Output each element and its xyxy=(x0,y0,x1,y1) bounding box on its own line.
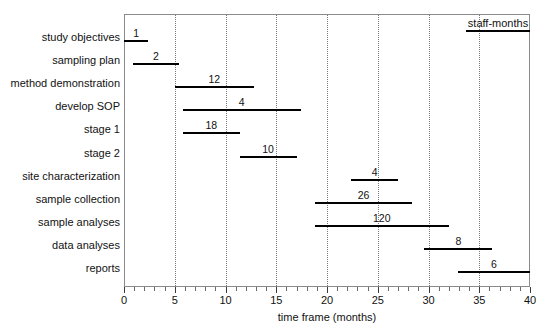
x-tick-minor xyxy=(469,287,470,291)
bar-value-label: 120 xyxy=(373,213,391,224)
x-tick-major xyxy=(175,287,176,293)
bar-value-label: 12 xyxy=(208,74,220,85)
x-tick-minor xyxy=(286,287,287,291)
bar-value-label: 6 xyxy=(491,259,497,270)
gridline xyxy=(378,15,379,286)
x-tick-label: 5 xyxy=(172,295,178,306)
x-tick-minor xyxy=(256,287,257,291)
category-axis: study objectivessampling planmethod demo… xyxy=(0,0,120,328)
task-bar xyxy=(183,109,301,111)
category-label: study objectives xyxy=(42,32,120,43)
x-tick-major xyxy=(378,287,379,293)
x-tick-minor xyxy=(266,287,267,291)
bar-value-label: 1 xyxy=(133,28,139,39)
bar-value-label: 4 xyxy=(372,167,378,178)
x-tick-minor xyxy=(439,287,440,291)
x-tick-minor xyxy=(144,287,145,291)
x-tick-label: 40 xyxy=(524,295,536,306)
bar-value-label: 10 xyxy=(262,144,274,155)
x-tick-label: 15 xyxy=(270,295,282,306)
category-label: stage 1 xyxy=(84,124,120,135)
task-bar xyxy=(315,225,449,227)
task-bar xyxy=(240,156,297,158)
x-tick-minor xyxy=(418,287,419,291)
x-tick-minor xyxy=(185,287,186,291)
x-tick-label: 10 xyxy=(219,295,231,306)
x-tick-minor xyxy=(195,287,196,291)
gantt-chart: study objectivessampling planmethod demo… xyxy=(0,0,556,328)
x-tick-major xyxy=(479,287,480,293)
x-tick-minor xyxy=(398,287,399,291)
x-tick-minor xyxy=(154,287,155,291)
x-tick-major xyxy=(276,287,277,293)
x-tick-minor xyxy=(297,287,298,291)
task-bar xyxy=(124,40,148,42)
category-label: stage 2 xyxy=(84,147,120,158)
category-label: sampling plan xyxy=(52,55,120,66)
x-tick-label: 30 xyxy=(422,295,434,306)
gridline xyxy=(327,15,328,286)
x-tick-minor xyxy=(489,287,490,291)
x-tick-minor xyxy=(510,287,511,291)
gridline xyxy=(175,15,176,286)
x-tick-major xyxy=(124,287,125,293)
x-tick-label: 35 xyxy=(473,295,485,306)
x-tick-minor xyxy=(246,287,247,291)
task-bar xyxy=(351,179,398,181)
bar-value-label: 2 xyxy=(153,51,159,62)
category-label: site characterization xyxy=(22,170,120,181)
bar-value-label: 4 xyxy=(239,97,245,108)
gridline xyxy=(429,15,430,286)
x-axis-title: time frame (months) xyxy=(278,312,376,323)
x-tick-minor xyxy=(368,287,369,291)
gridline xyxy=(226,15,227,286)
task-bar xyxy=(458,271,530,273)
bar-value-label: 18 xyxy=(205,120,217,131)
x-tick-minor xyxy=(347,287,348,291)
legend-label: staff-months xyxy=(466,17,530,29)
task-bar xyxy=(133,63,179,65)
x-tick-minor xyxy=(500,287,501,291)
x-tick-minor xyxy=(205,287,206,291)
x-tick-minor xyxy=(459,287,460,291)
bar-value-label: 8 xyxy=(456,236,462,247)
x-tick-minor xyxy=(388,287,389,291)
category-label: sample collection xyxy=(36,193,120,204)
legend: staff-months xyxy=(466,17,530,32)
category-label: sample analyses xyxy=(38,216,120,227)
x-tick-minor xyxy=(215,287,216,291)
x-tick-label: 20 xyxy=(321,295,333,306)
x-tick-label: 0 xyxy=(121,295,127,306)
gridline xyxy=(479,15,480,286)
x-tick-minor xyxy=(317,287,318,291)
bar-value-label: 26 xyxy=(358,190,370,201)
x-tick-major xyxy=(530,287,531,293)
x-tick-minor xyxy=(337,287,338,291)
category-label: reports xyxy=(86,263,120,274)
category-label: data analyses xyxy=(52,239,120,250)
x-tick-minor xyxy=(520,287,521,291)
x-tick-major xyxy=(327,287,328,293)
task-bar xyxy=(175,86,254,88)
task-bar xyxy=(315,202,412,204)
x-tick-minor xyxy=(165,287,166,291)
task-bar xyxy=(424,248,492,250)
x-tick-label: 25 xyxy=(372,295,384,306)
legend-line-icon xyxy=(466,30,530,32)
category-label: develop SOP xyxy=(55,101,120,112)
x-tick-minor xyxy=(236,287,237,291)
x-tick-minor xyxy=(408,287,409,291)
x-tick-minor xyxy=(134,287,135,291)
task-bar xyxy=(183,132,240,134)
gridline xyxy=(276,15,277,286)
x-tick-minor xyxy=(357,287,358,291)
x-tick-minor xyxy=(307,287,308,291)
x-tick-minor xyxy=(449,287,450,291)
x-tick-major xyxy=(429,287,430,293)
category-label: method demonstration xyxy=(11,78,120,89)
x-tick-major xyxy=(226,287,227,293)
